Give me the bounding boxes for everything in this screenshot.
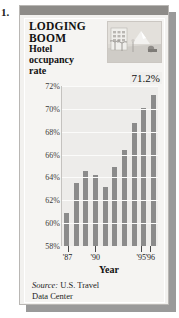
- y-axis-label: 58%: [45, 242, 60, 251]
- panel-top-bar: [20, 6, 169, 15]
- x-axis-label: '90: [90, 253, 99, 262]
- x-axis-label: '95: [136, 253, 145, 262]
- bar-1994: [132, 123, 137, 246]
- y-axis-labels: 58%60%62%64%66%68%70%72%: [36, 86, 60, 246]
- bar-1989: [83, 171, 88, 246]
- y-axis-label: 62%: [45, 196, 60, 205]
- bar-series: [62, 86, 158, 246]
- title-line-4: occupancy: [29, 55, 101, 66]
- y-axis-label: 68%: [45, 127, 60, 136]
- bar-1990: [93, 175, 98, 246]
- x-axis-label: '87: [63, 253, 72, 262]
- x-tick: [95, 246, 96, 252]
- y-axis-label: 72%: [45, 82, 60, 91]
- plot-area: [61, 86, 158, 246]
- gridline: [62, 177, 158, 178]
- hotel-resort-photo: [107, 21, 162, 63]
- source-text: U.S. Travel: [60, 280, 99, 290]
- gridline: [62, 223, 158, 224]
- x-tick: [150, 246, 151, 252]
- x-tick: [68, 246, 69, 252]
- bar-1991: [103, 187, 108, 246]
- chart-title: LODGING BOOM Hotel occupancy rate: [29, 20, 101, 76]
- resort-illustration-icon: [108, 22, 161, 62]
- gridline: [62, 155, 158, 156]
- source-note: Source: U.S. Travel Data Center: [32, 280, 152, 303]
- x-axis-ticks: [61, 246, 157, 252]
- x-axis-title: Year: [61, 264, 157, 275]
- x-axis-label: '96: [146, 253, 155, 262]
- bar-1993: [122, 150, 127, 246]
- x-tick: [141, 246, 142, 252]
- gridline: [62, 109, 158, 110]
- data-label-peak: 71.2%: [130, 72, 162, 84]
- bar-1987: [64, 213, 69, 246]
- y-axis-label: 64%: [45, 173, 60, 182]
- y-axis-label: 66%: [45, 150, 60, 159]
- x-axis-labels: '87'90'95'96: [61, 253, 157, 264]
- y-axis-label: 70%: [45, 104, 60, 113]
- bar-1988: [74, 183, 79, 246]
- gridline: [62, 132, 158, 133]
- source-text-2: Data Center: [32, 291, 73, 301]
- chart-panel: LODGING BOOM Hotel occupancy rate: [19, 5, 169, 305]
- figure-number: 1.: [1, 6, 9, 18]
- bar-1992: [112, 167, 117, 246]
- gridline: [62, 200, 158, 201]
- gridline: [62, 86, 158, 87]
- title-line-5: rate: [29, 66, 101, 77]
- y-axis-label: 60%: [45, 219, 60, 228]
- source-prefix: Source:: [32, 280, 58, 290]
- title-line-1: LODGING: [29, 20, 101, 32]
